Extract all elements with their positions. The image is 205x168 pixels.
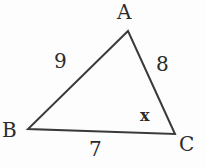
vertex-label-b: B	[2, 120, 17, 140]
vertex-label-c: C	[179, 134, 194, 154]
side-length-label-ac: 8	[156, 54, 169, 74]
triangle-outline	[28, 31, 175, 134]
angle-label-x: x	[140, 108, 150, 124]
triangle-diagram-canvas: A B C 9 8 7 x	[0, 0, 205, 168]
vertex-label-a: A	[117, 2, 131, 22]
triangle-figure	[0, 0, 205, 168]
side-length-label-ab: 9	[54, 51, 67, 71]
side-length-label-bc: 7	[89, 139, 102, 159]
